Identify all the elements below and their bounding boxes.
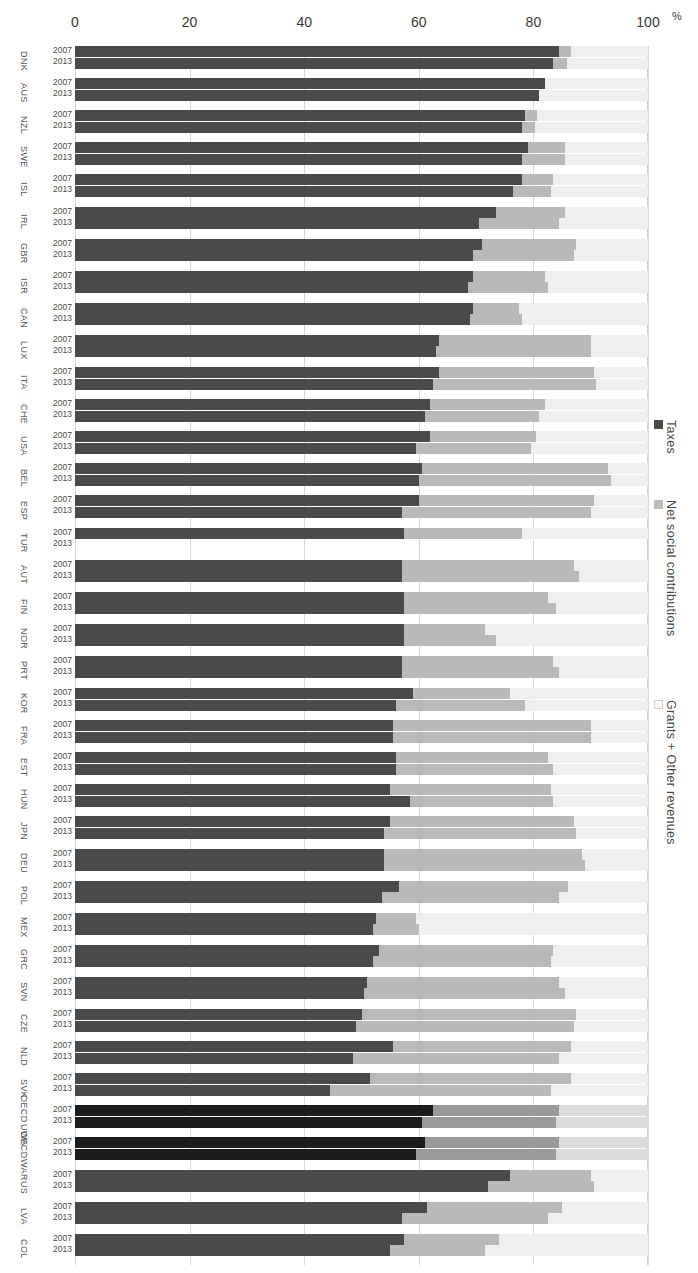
bar-group-svn bbox=[75, 977, 648, 1009]
year-label: 2007 bbox=[44, 912, 72, 923]
segment-taxes bbox=[75, 271, 473, 282]
year-labels-col: 20072013 bbox=[44, 1233, 72, 1255]
segment-nsc bbox=[510, 1170, 590, 1181]
bar-jpn-2007 bbox=[75, 816, 648, 827]
year-label: 2007 bbox=[44, 494, 72, 505]
year-label: 2013 bbox=[44, 1083, 72, 1094]
segment-taxes bbox=[75, 335, 439, 346]
segment-gor bbox=[559, 1053, 648, 1064]
segment-gor bbox=[559, 218, 648, 229]
bar-ita-2007 bbox=[75, 367, 648, 378]
segment-taxes bbox=[75, 174, 522, 185]
year-label: 2007 bbox=[44, 848, 72, 859]
segment-taxes bbox=[75, 346, 436, 357]
year-labels-grc: 20072013 bbox=[44, 944, 72, 966]
year-labels-mex: 20072013 bbox=[44, 912, 72, 934]
segment-gor bbox=[571, 46, 648, 57]
year-labels-jpn: 20072013 bbox=[44, 815, 72, 837]
year-label: 2013 bbox=[44, 1180, 72, 1191]
bar-usa-2007 bbox=[75, 431, 648, 442]
year-labels-lux: 20072013 bbox=[44, 334, 72, 356]
segment-nsc bbox=[390, 784, 550, 795]
year-labels-fin: 20072013 bbox=[44, 591, 72, 613]
year-label: 2007 bbox=[44, 1040, 72, 1051]
year-label: 2013 bbox=[44, 602, 72, 613]
segment-nsc bbox=[402, 1213, 548, 1224]
segment-gor bbox=[567, 58, 648, 69]
bar-group-lva bbox=[75, 1202, 648, 1234]
country-label-rus: RUS bbox=[0, 1167, 46, 1203]
year-labels-gbr: 20072013 bbox=[44, 238, 72, 260]
country-label-lux: LUX bbox=[0, 332, 46, 368]
bar-dnk-2007 bbox=[75, 46, 648, 57]
country-label-pol: POL bbox=[0, 878, 46, 914]
segment-nsc bbox=[393, 720, 591, 731]
year-labels-can: 20072013 bbox=[44, 302, 72, 324]
plot-area bbox=[75, 46, 648, 1265]
year-label: 2007 bbox=[44, 238, 72, 249]
segment-nsc bbox=[522, 174, 554, 185]
year-label: 2013 bbox=[44, 666, 72, 677]
year-label: 2007 bbox=[44, 976, 72, 987]
year-labels-oecd-uwa: 20072013 bbox=[44, 1104, 72, 1126]
segment-nsc bbox=[384, 828, 576, 839]
bar-oecd-wa-2007 bbox=[75, 1137, 648, 1148]
segment-gor bbox=[594, 367, 648, 378]
segment-gor bbox=[556, 1117, 648, 1128]
segment-taxes bbox=[75, 411, 425, 422]
segment-gor bbox=[551, 186, 648, 197]
legend-label-gor: Grants + Other revenues bbox=[664, 700, 678, 845]
segment-taxes bbox=[75, 1105, 433, 1116]
segment-nsc bbox=[425, 1137, 560, 1148]
country-label-irl: IRL bbox=[0, 204, 46, 240]
segment-gor bbox=[559, 667, 648, 678]
segment-taxes bbox=[75, 1137, 425, 1148]
year-labels-swe: 20072013 bbox=[44, 141, 72, 163]
year-label: 2013 bbox=[44, 441, 72, 452]
bar-can-2013 bbox=[75, 314, 648, 325]
segment-nsc bbox=[379, 945, 554, 956]
segment-nsc bbox=[382, 892, 560, 903]
bar-aus-2007 bbox=[75, 78, 648, 89]
year-label: 2013 bbox=[44, 152, 72, 163]
bar-lux-2007 bbox=[75, 335, 648, 346]
legend-swatch-gor bbox=[654, 700, 663, 709]
bar-swe-2013 bbox=[75, 154, 648, 165]
segment-gor bbox=[562, 1202, 648, 1213]
segment-nsc bbox=[404, 592, 547, 603]
segment-nsc bbox=[433, 1105, 559, 1116]
year-labels-nld: 20072013 bbox=[44, 1040, 72, 1062]
segment-gor bbox=[559, 977, 648, 988]
segment-nsc bbox=[479, 218, 559, 229]
year-label: 2013 bbox=[44, 1147, 72, 1158]
bar-tur-2007 bbox=[75, 528, 648, 539]
bar-irl-2007 bbox=[75, 207, 648, 218]
segment-gor bbox=[576, 239, 648, 250]
bar-group-can bbox=[75, 303, 648, 335]
year-label: 2007 bbox=[44, 109, 72, 120]
bar-cze-2007 bbox=[75, 1009, 648, 1020]
segment-gor bbox=[556, 603, 648, 614]
country-label-svn: SVN bbox=[0, 974, 46, 1010]
country-label-grc: GRC bbox=[0, 942, 46, 978]
segment-taxes bbox=[75, 303, 473, 314]
segment-gor bbox=[496, 635, 648, 646]
segment-taxes bbox=[75, 720, 393, 731]
bar-group-pol bbox=[75, 881, 648, 913]
bar-svk-2007 bbox=[75, 1073, 648, 1084]
bar-group-gbr bbox=[75, 239, 648, 271]
year-label: 2007 bbox=[44, 366, 72, 377]
bar-svn-2007 bbox=[75, 977, 648, 988]
bar-esp-2007 bbox=[75, 495, 648, 506]
bar-group-nld bbox=[75, 1041, 648, 1073]
year-label: 2007 bbox=[44, 1233, 72, 1244]
segment-nsc bbox=[384, 849, 582, 860]
year-labels-isr: 20072013 bbox=[44, 270, 72, 292]
bar-bel-2007 bbox=[75, 463, 648, 474]
year-label: 2007 bbox=[44, 944, 72, 955]
segment-gor bbox=[594, 495, 648, 506]
year-label: 2007 bbox=[44, 1008, 72, 1019]
segment-taxes bbox=[75, 603, 404, 614]
segment-gor bbox=[559, 892, 648, 903]
country-label-isr: ISR bbox=[0, 268, 46, 304]
